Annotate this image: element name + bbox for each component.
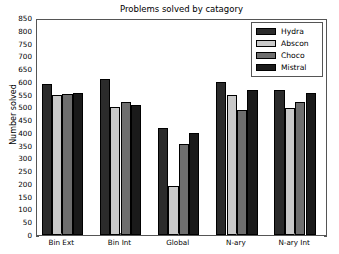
y-tick-label: 350	[0, 143, 32, 150]
bar	[227, 95, 237, 235]
bar	[42, 84, 52, 235]
legend-item-label: Hydra	[281, 27, 304, 36]
y-tick-label: 650	[0, 66, 32, 73]
y-tick-label: 50	[0, 220, 32, 227]
y-tick-mark-left	[36, 236, 39, 237]
legend-swatch-icon	[256, 40, 276, 47]
bar	[216, 82, 226, 235]
bar	[179, 144, 189, 235]
bar	[295, 102, 305, 235]
bar	[237, 110, 247, 235]
y-tick-label: 450	[0, 118, 32, 125]
x-tick-label: Bin Ext	[49, 238, 74, 254]
bar	[274, 90, 284, 235]
legend: HydraAbsconChocoMistral	[251, 22, 323, 77]
y-tick-label: 600	[0, 79, 32, 86]
bar-chart-figure: Problems solved by catagory Number solve…	[0, 0, 339, 254]
legend-item: Choco	[256, 50, 318, 61]
chart-title: Problems solved by catagory	[36, 4, 327, 15]
legend-swatch-icon	[256, 28, 276, 35]
y-tick-label: 200	[0, 181, 32, 188]
bar	[131, 105, 141, 235]
legend-item: Hydra	[256, 26, 318, 37]
y-tick-label: 0	[0, 232, 32, 239]
bar	[285, 108, 295, 235]
bar	[158, 128, 168, 235]
bar	[306, 93, 316, 235]
legend-item: Mistral	[256, 62, 318, 73]
x-tick-label: Global	[166, 238, 189, 254]
x-tick-mark	[120, 233, 121, 236]
y-tick-label: 250	[0, 169, 32, 176]
legend-item-label: Mistral	[281, 63, 306, 72]
y-tick-label: 700	[0, 54, 32, 61]
y-tick-label: 750	[0, 41, 32, 48]
bar	[168, 186, 178, 235]
x-tick-mark	[294, 233, 295, 236]
x-tick-mark	[61, 233, 62, 236]
bar	[110, 107, 120, 235]
legend-item: Abscon	[256, 38, 318, 49]
legend-swatch-icon	[256, 52, 276, 59]
x-tick-label: N-ary Int	[278, 238, 309, 254]
y-tick-label: 500	[0, 105, 32, 112]
y-tick-label: 800	[0, 28, 32, 35]
bar	[52, 95, 62, 235]
legend-item-label: Choco	[281, 51, 305, 60]
y-tick-label: 550	[0, 92, 32, 99]
y-tick-label: 300	[0, 156, 32, 163]
bar	[247, 90, 257, 235]
bar	[121, 102, 131, 235]
y-tick-label: 400	[0, 130, 32, 137]
y-tick-mark-right	[324, 236, 327, 237]
x-tick-mark	[178, 233, 179, 236]
x-tick-label: Bin Int	[108, 238, 131, 254]
bar	[189, 133, 199, 235]
y-tick-label: 100	[0, 207, 32, 214]
bar	[100, 79, 110, 235]
y-tick-label: 850	[0, 15, 32, 22]
x-tick-label: N-ary	[226, 238, 246, 254]
x-tick-mark	[236, 233, 237, 236]
bar	[73, 93, 83, 235]
legend-swatch-icon	[256, 64, 276, 71]
bar	[62, 94, 72, 235]
legend-item-label: Abscon	[281, 39, 309, 48]
y-tick-label: 150	[0, 194, 32, 201]
